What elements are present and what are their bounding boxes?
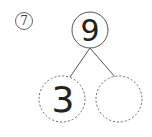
whole-value: 9	[80, 13, 99, 48]
connector-line-left	[70, 48, 90, 77]
part-value-left: 3	[52, 79, 75, 120]
part-circle-right[interactable]	[96, 76, 142, 122]
connector-line-right	[90, 48, 115, 77]
number-bond-diagram: 9 3	[0, 0, 152, 137]
